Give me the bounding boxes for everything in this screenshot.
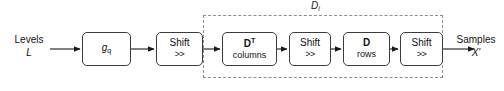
block-gq-label: gq: [102, 43, 111, 55]
output-label-line2: X': [452, 46, 500, 59]
block-shift-2[interactable]: Shift >>: [289, 32, 331, 66]
block-shift-1-operator: >>: [175, 50, 185, 60]
input-label-line2: L: [6, 46, 52, 59]
block-d-rows[interactable]: D rows: [343, 32, 390, 66]
block-shift-2-title: Shift: [300, 38, 320, 49]
block-gq-subscript: q: [107, 47, 111, 54]
block-shift-1-title: Shift: [169, 38, 189, 49]
block-shift-2-operator: >>: [305, 50, 315, 60]
input-label-line1: Levels: [6, 33, 52, 46]
block-shift-3-title: Shift: [411, 38, 431, 49]
input-label: Levels L: [6, 33, 52, 59]
block-dt-title: DT: [244, 37, 256, 50]
block-gq[interactable]: gq: [82, 32, 131, 66]
block-diagram: Di Levels L gq Shift >> DT column: [0, 0, 504, 91]
block-d-subtitle: rows: [357, 50, 376, 60]
block-d-title: D: [363, 38, 370, 49]
block-dt-subtitle: columns: [233, 51, 267, 61]
output-label-line1: Samples: [452, 33, 500, 46]
block-dt-columns[interactable]: DT columns: [222, 32, 277, 66]
block-dt-superscript: T: [251, 37, 255, 44]
block-shift-1[interactable]: Shift >>: [156, 32, 203, 66]
block-dt-main: D: [244, 38, 251, 49]
block-shift-3-operator: >>: [417, 50, 427, 60]
block-shift-3[interactable]: Shift >>: [400, 32, 443, 66]
output-label: Samples X': [452, 33, 500, 59]
